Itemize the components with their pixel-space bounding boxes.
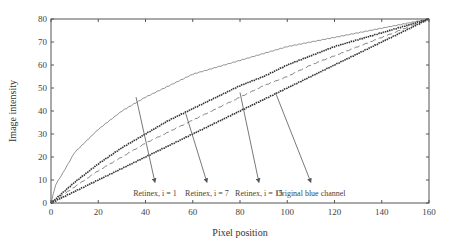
- x-tick-label: 20: [94, 207, 104, 217]
- x-tick-label: 60: [188, 207, 198, 217]
- y-tick-label: 60: [38, 60, 48, 70]
- x-tick-label: 140: [375, 207, 389, 217]
- x-tick-label: 40: [141, 207, 151, 217]
- annotation-layer: Retinex, i = 1Retinex, i = 7Retinex, i =…: [133, 93, 346, 199]
- axis-ticks: 02040608010012014016001020304050607080: [38, 14, 436, 217]
- series-layer: [51, 19, 429, 203]
- y-tick-label: 50: [38, 83, 48, 93]
- x-tick-label: 100: [281, 207, 295, 217]
- x-tick-label: 80: [236, 207, 246, 217]
- y-axis-title: Image intensity: [7, 80, 18, 142]
- annotation-arrow: [186, 113, 207, 182]
- annotation-arrow: [240, 93, 259, 183]
- y-tick-label: 70: [38, 37, 48, 47]
- annotation-arrow: [275, 93, 310, 183]
- annotation-label: Original blue channel: [276, 189, 346, 198]
- y-tick-label: 0: [43, 198, 48, 208]
- y-tick-label: 10: [38, 175, 48, 185]
- x-tick-label: 120: [328, 207, 342, 217]
- annotation-label: Retinex, i = 7: [185, 189, 229, 198]
- annotation-label: Retinex, i = 1: [133, 189, 177, 198]
- line-chart: Retinex, i = 1Retinex, i = 7Retinex, i =…: [0, 0, 456, 241]
- y-tick-label: 30: [38, 129, 48, 139]
- y-tick-label: 40: [38, 106, 48, 116]
- x-tick-label: 0: [49, 207, 54, 217]
- series-line-4: [51, 19, 429, 203]
- y-tick-label: 20: [38, 152, 48, 162]
- x-axis-title: Pixel position: [212, 227, 267, 238]
- y-tick-label: 80: [38, 14, 48, 24]
- x-tick-label: 160: [422, 207, 436, 217]
